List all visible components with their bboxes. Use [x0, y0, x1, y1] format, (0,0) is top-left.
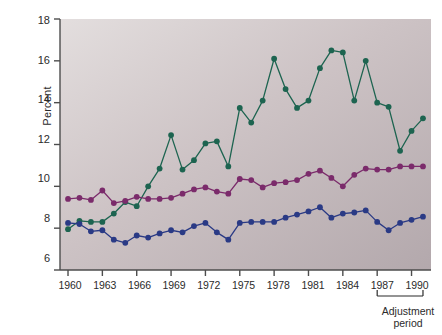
data-point [283, 215, 289, 221]
data-point [420, 164, 426, 170]
plot-area [0, 0, 442, 335]
data-point [157, 196, 163, 202]
data-point [386, 104, 392, 110]
data-point [351, 98, 357, 104]
data-point [374, 167, 380, 173]
data-point [397, 148, 403, 154]
data-point [328, 175, 334, 181]
data-point [225, 164, 231, 170]
data-point [88, 228, 94, 234]
data-point [145, 235, 151, 241]
data-point [409, 164, 415, 170]
data-point [374, 100, 380, 106]
data-point [271, 219, 277, 225]
data-point [237, 105, 243, 111]
data-point [351, 172, 357, 178]
data-point [260, 184, 266, 190]
data-point [317, 65, 323, 71]
data-point [237, 220, 243, 226]
data-point [225, 237, 231, 243]
data-point [260, 98, 266, 104]
data-point [397, 164, 403, 170]
data-point [99, 219, 105, 225]
data-point [88, 219, 94, 225]
data-point [111, 237, 117, 243]
data-point [214, 138, 220, 144]
data-point [363, 166, 369, 172]
data-point [294, 177, 300, 183]
data-point [65, 226, 71, 232]
data-point [237, 176, 243, 182]
data-point [294, 212, 300, 218]
data-point [214, 229, 220, 235]
data-point [77, 221, 83, 227]
data-point [122, 240, 128, 246]
data-point [340, 211, 346, 217]
data-point [168, 132, 174, 138]
data-point [420, 115, 426, 121]
data-point [248, 177, 254, 183]
data-point [180, 191, 186, 197]
data-point [134, 203, 140, 209]
data-point [271, 56, 277, 62]
data-point [283, 179, 289, 185]
data-point [77, 195, 83, 201]
data-point [271, 180, 277, 186]
data-point [420, 214, 426, 220]
plot-background [60, 19, 431, 270]
data-point [134, 194, 140, 200]
data-point [340, 183, 346, 189]
data-point [134, 233, 140, 239]
data-point [306, 98, 312, 104]
data-point [306, 171, 312, 177]
data-point [317, 204, 323, 210]
data-point [386, 167, 392, 173]
data-point [157, 231, 163, 237]
data-point [191, 187, 197, 193]
data-point [225, 191, 231, 197]
data-point [157, 166, 163, 172]
data-point [317, 168, 323, 174]
data-point [328, 215, 334, 221]
data-point [409, 217, 415, 223]
data-point [374, 219, 380, 225]
data-point [65, 196, 71, 202]
data-point [99, 188, 105, 194]
data-point [328, 47, 334, 53]
adjustment-period-bracket [377, 290, 423, 296]
data-point [145, 183, 151, 189]
data-point [88, 197, 94, 203]
chart-figure: Percent 18 16 14 12 10 8 6 1960 1963 196… [0, 0, 442, 335]
data-point [214, 189, 220, 195]
data-point [283, 86, 289, 92]
data-point [168, 227, 174, 233]
data-point [203, 220, 209, 226]
data-point [203, 141, 209, 147]
data-point [203, 184, 209, 190]
data-point [363, 58, 369, 64]
data-point [306, 209, 312, 215]
data-point [386, 227, 392, 233]
data-point [122, 198, 128, 204]
data-point [409, 128, 415, 134]
data-point [99, 227, 105, 233]
data-point [260, 219, 266, 225]
data-point [180, 229, 186, 235]
data-point [145, 196, 151, 202]
data-point [65, 220, 71, 226]
data-point [340, 50, 346, 56]
data-point [363, 207, 369, 213]
data-point [397, 220, 403, 226]
data-point [111, 200, 117, 206]
data-point [248, 120, 254, 126]
data-point [111, 211, 117, 217]
data-point [294, 105, 300, 111]
data-point [168, 195, 174, 201]
data-point [191, 223, 197, 229]
data-point [351, 210, 357, 216]
data-point [180, 167, 186, 173]
data-point [191, 157, 197, 163]
data-point [248, 219, 254, 225]
